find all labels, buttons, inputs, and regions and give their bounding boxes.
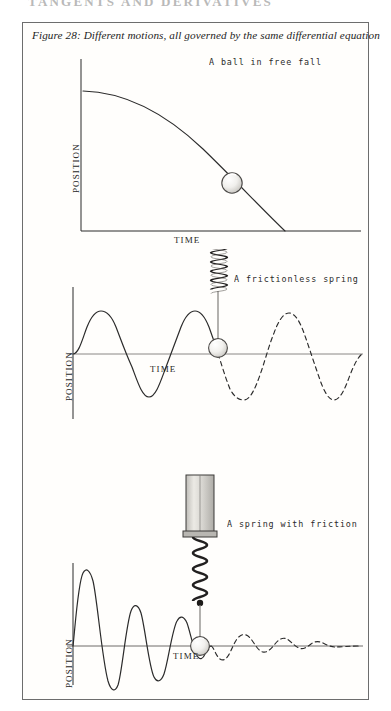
ball-icon <box>222 173 242 193</box>
annotation-spring-with-friction: A spring with friction <box>227 518 358 529</box>
x-axis-label-friction: TIME <box>173 651 199 661</box>
y-axis-label-frictionless: POSITION <box>64 351 74 401</box>
dashpot-icon <box>183 475 217 537</box>
ball-icon <box>209 339 228 358</box>
x-axis-label-frictionless: TIME <box>150 364 176 374</box>
helical-spring-icon <box>209 249 228 294</box>
friction-curve-solid <box>73 570 211 690</box>
frictionless-curve-dashed <box>218 313 362 400</box>
y-axis-label-friction: POSITION <box>64 638 74 688</box>
panel-frictionless-spring: A frictionless spring POSITION TIME <box>23 249 368 449</box>
coiled-spring-icon <box>193 537 207 606</box>
figure-frame: Figure 28: Different motions, all govern… <box>22 22 369 700</box>
annotation-free-fall: A ball in free fall <box>209 56 322 67</box>
free-fall-curve <box>83 91 285 231</box>
x-axis-label-free-fall: TIME <box>174 235 200 245</box>
annotation-frictionless-spring: A frictionless spring <box>234 273 359 284</box>
y-axis-label-free-fall: POSITION <box>71 143 81 193</box>
panel-free-fall: A ball in free fall POSITION TIME <box>23 45 368 255</box>
running-header: TANGENTS AND DERIVATIVES <box>28 0 358 8</box>
figure-caption: Figure 28: Different motions, all govern… <box>32 29 380 41</box>
friction-curve-dashed <box>211 635 359 660</box>
panel-spring-with-friction: A spring with friction POSITION TIME <box>23 445 368 695</box>
